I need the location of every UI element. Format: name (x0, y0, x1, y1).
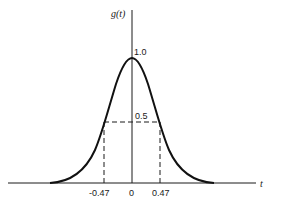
tick-label-pos: 0.47 (152, 188, 170, 198)
x-axis-label: t (260, 178, 263, 189)
gaussian-diagram: g(t) t 1.0 0.5 -0.47 0 0.47 (0, 0, 283, 206)
half-level-label: 0.5 (135, 111, 148, 121)
peak-label: 1.0 (134, 47, 147, 57)
tick-label-zero: 0 (129, 188, 134, 198)
y-axis-label: g(t) (111, 8, 126, 20)
tick-label-neg: -0.47 (89, 188, 110, 198)
